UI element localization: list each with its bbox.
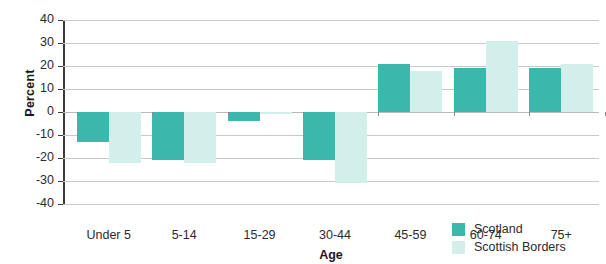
x-axis-tick-mark [378, 112, 379, 116]
bar-scottish-borders [184, 112, 216, 163]
gridline [63, 43, 599, 44]
bar-scotland [303, 112, 335, 160]
y-axis-tick-label: 20 [8, 59, 54, 72]
bar-scottish-borders [486, 41, 518, 112]
y-axis-tick-label: -30 [8, 174, 54, 187]
bar-scottish-borders [561, 64, 593, 112]
chart-legend: ScotlandScottish Borders [452, 220, 566, 256]
gridline [63, 20, 599, 21]
bar-scottish-borders [260, 112, 292, 114]
x-axis-tick-mark [454, 112, 455, 116]
y-axis-tick-label: 0 [8, 105, 54, 118]
x-axis-tick-mark [303, 112, 304, 116]
bar-scotland [152, 112, 184, 160]
y-axis-tick-mark [58, 89, 63, 90]
x-axis-tick-mark [152, 112, 153, 116]
gridline [63, 204, 599, 205]
y-axis-tick-label: -40 [8, 197, 54, 210]
legend-item: Scottish Borders [452, 238, 566, 256]
y-axis-tick-mark [58, 112, 63, 113]
plot-area: 403020100-10-20-30-40 Under 55-1415-2930… [63, 20, 599, 204]
bar-scottish-borders [410, 71, 442, 112]
y-axis-tick-label: 30 [8, 36, 54, 49]
y-axis-tick-mark [58, 135, 63, 136]
x-axis-tick-mark [228, 112, 229, 116]
y-axis-tick-label: 40 [8, 13, 54, 26]
legend-label: Scottish Borders [474, 240, 566, 254]
legend-item: Scotland [452, 220, 566, 238]
y-axis-tick-mark [58, 181, 63, 182]
bar-scottish-borders [335, 112, 367, 183]
bar-scotland [228, 112, 260, 121]
legend-swatch-icon [452, 223, 465, 236]
y-axis-tick-mark [58, 43, 63, 44]
gridline [63, 66, 599, 67]
gridline [63, 89, 599, 90]
bar-scotland [529, 68, 561, 112]
legend-label: Scotland [474, 222, 523, 236]
y-axis-tick-mark [58, 20, 63, 21]
y-axis-tick-label: -10 [8, 128, 54, 141]
x-axis-tick-mark [77, 112, 78, 116]
bar-scotland [77, 112, 109, 142]
y-axis-tick-mark [58, 158, 63, 159]
y-axis-tick-mark [58, 66, 63, 67]
gridline [63, 181, 599, 182]
y-axis-tick-label: 10 [8, 82, 54, 95]
bar-scotland [454, 68, 486, 112]
x-axis-tick-mark [529, 112, 530, 116]
y-axis-tick-mark [58, 204, 63, 205]
bar-scottish-borders [109, 112, 141, 163]
y-axis-tick-label: -20 [8, 151, 54, 164]
bar-scotland [378, 64, 410, 112]
legend-swatch-icon [452, 241, 465, 254]
